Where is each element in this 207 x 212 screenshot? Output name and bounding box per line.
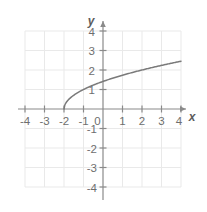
x-tick-label: 2 (139, 115, 145, 127)
y-tick-label: 3 (89, 45, 95, 57)
y-tick-label: -3 (87, 162, 97, 174)
y-tick-label: 2 (89, 65, 95, 77)
y-tick-label: -4 (87, 182, 98, 194)
coordinate-plane-figure: -4 -3 -2 -1 0 1 2 3 4 4 3 2 1 -1 -2 -3 -… (0, 0, 207, 212)
y-axis-label: y (87, 14, 96, 28)
y-tick-label: -2 (87, 143, 97, 155)
x-tick-label: -2 (59, 115, 69, 127)
x-axis-label: x (188, 110, 197, 124)
x-tick-label: -4 (20, 115, 31, 127)
x-tick-label: -3 (39, 115, 49, 127)
x-tick-label: 3 (158, 115, 164, 127)
x-tick-label: 1 (119, 115, 125, 127)
y-tick-label: -1 (87, 123, 97, 135)
x-tick-label: 4 (176, 115, 183, 127)
graph-screenshot: -4 -3 -2 -1 0 1 2 3 4 4 3 2 1 -1 -2 -3 -… (0, 0, 207, 212)
